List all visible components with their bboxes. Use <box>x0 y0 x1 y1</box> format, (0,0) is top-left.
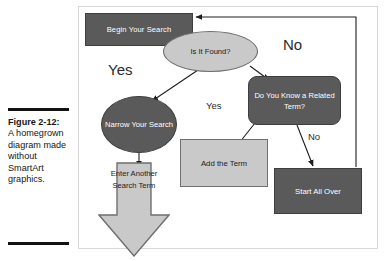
flow-node-start-all-over[interactable]: Start All Over <box>274 168 362 214</box>
edge-label-no-primary: No <box>283 36 302 53</box>
edge-label-no-secondary: No <box>308 131 320 142</box>
flow-node-label: Narrow Your Search <box>105 119 173 131</box>
flow-node-narrow-your-search[interactable]: Narrow Your Search <box>101 96 177 153</box>
edge-label-yes-primary: Yes <box>108 61 132 78</box>
flow-node-label: Do You Know a Related Term? <box>249 90 340 112</box>
edge-label-yes-secondary: Yes <box>206 100 222 111</box>
flow-node-do-you-know-a-related-term[interactable]: Do You Know a Related Term? <box>248 76 341 125</box>
connector-found-to-narrow <box>152 70 198 101</box>
flow-node-label: Begin Your Search <box>107 25 172 34</box>
flow-node-label: Start All Over <box>295 187 341 196</box>
flow-node-label: Enter Another Search Term <box>98 168 170 191</box>
flow-node-label: Add the Term <box>201 159 247 168</box>
flow-node-is-it-found[interactable]: Is It Found? <box>163 31 258 72</box>
flow-node-add-the-term[interactable]: Add the Term <box>180 139 268 187</box>
flow-node-enter-another-search-term[interactable]: Enter Another Search Term <box>98 162 170 257</box>
flow-node-label: Is It Found? <box>190 47 230 56</box>
